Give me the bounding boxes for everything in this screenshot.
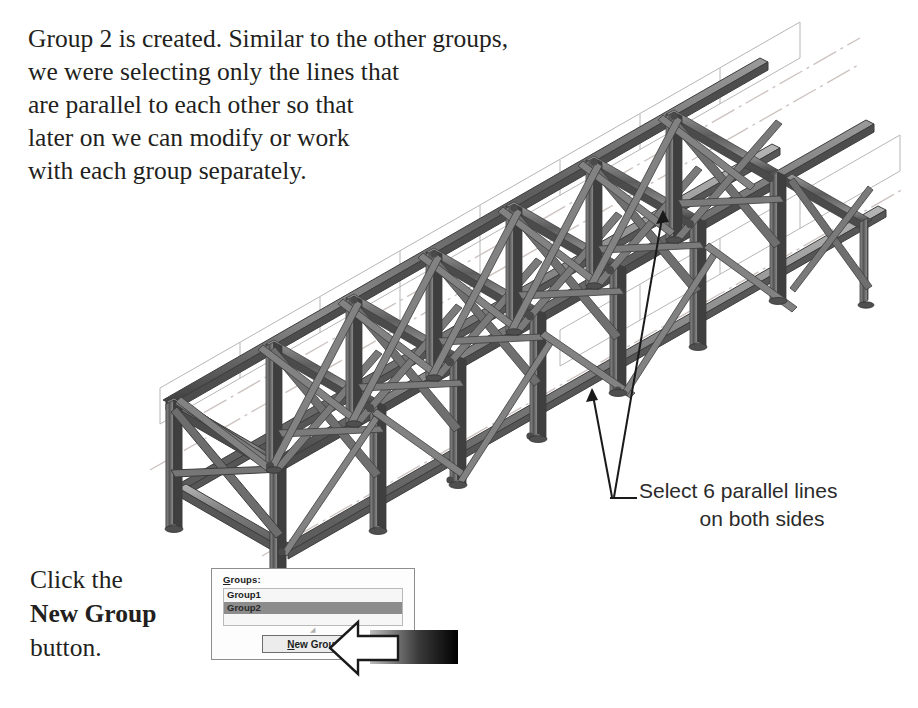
groups-label-rest: roups: bbox=[231, 574, 261, 585]
left-pointing-arrow-icon bbox=[328, 618, 400, 678]
groups-label: Groups: bbox=[223, 574, 261, 585]
groups-label-mnemonic: G bbox=[223, 574, 231, 585]
list-item[interactable]: Group2 bbox=[224, 602, 402, 615]
resize-grip-icon: ◢ bbox=[310, 627, 315, 632]
callout-annotation-text: Select 6 parallel lines on both sides bbox=[639, 477, 907, 533]
click-instruction-line2: New Group bbox=[30, 597, 205, 631]
click-instruction-line3: button. bbox=[30, 631, 205, 665]
click-instruction-text: Click the New Group button. bbox=[30, 563, 205, 665]
click-instruction-line1: Click the bbox=[30, 563, 205, 597]
list-item[interactable]: Group1 bbox=[224, 589, 402, 602]
figure-page: Group 2 is created. Similar to the other… bbox=[0, 0, 918, 708]
callout-line-2: on both sides bbox=[639, 505, 907, 533]
callout-line-1: Select 6 parallel lines bbox=[639, 477, 907, 505]
intro-paragraph: Group 2 is created. Similar to the other… bbox=[28, 22, 648, 187]
new-group-button-mnemonic: N bbox=[287, 639, 294, 650]
